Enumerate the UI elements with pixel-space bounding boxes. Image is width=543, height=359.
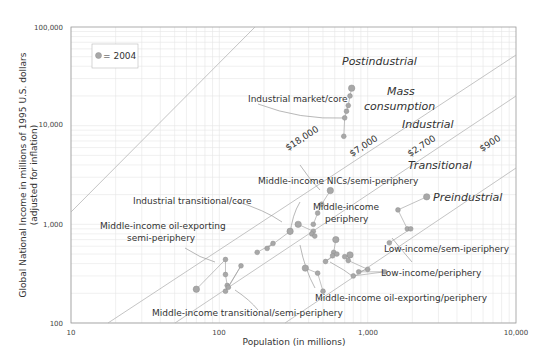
- data-point: [351, 274, 356, 279]
- legend-dot-icon: [96, 53, 102, 59]
- data-point: [193, 286, 199, 292]
- group-low-income-periphery: Low-income/periphery: [381, 268, 482, 278]
- x-tick-10: 10: [67, 329, 76, 337]
- trajectory-line: [398, 210, 407, 229]
- x-tick-100: 100: [212, 329, 225, 337]
- data-point: [342, 254, 347, 259]
- data-point: [226, 285, 231, 290]
- group-mi-oil-semi-1: Middle-income oil-exporting: [100, 221, 226, 231]
- data-point: [265, 246, 270, 251]
- stage-consumption: consumption: [364, 100, 435, 113]
- grid: [71, 27, 516, 323]
- data-point: [348, 85, 354, 91]
- stage-transitional: Transitional: [408, 159, 472, 172]
- data-point: [223, 272, 228, 277]
- data-point: [356, 269, 361, 274]
- data-point: [423, 194, 429, 200]
- data-point: [315, 271, 320, 276]
- data-point: [346, 258, 351, 263]
- price-label-2700: $2,700: [406, 133, 438, 159]
- legend: = 2004: [92, 44, 138, 68]
- data-point: [341, 134, 346, 139]
- legend-label: = 2004: [103, 51, 137, 61]
- trajectory-line: [348, 260, 367, 269]
- group-mi-periphery-1: Middle-income: [313, 202, 379, 212]
- data-point: [223, 257, 228, 262]
- stage-mass: Mass: [387, 85, 415, 98]
- data-point: [312, 234, 317, 239]
- group-mi-transitional: Middle-income transitional/semi-peripher…: [152, 308, 344, 318]
- y-tick-100000: 100,000: [34, 24, 63, 32]
- y-tick-10000: 10,000: [39, 121, 64, 129]
- stage-preindustrial: Preindustrial: [433, 191, 502, 204]
- data-point: [287, 228, 293, 234]
- data-point: [396, 208, 401, 213]
- data-point: [365, 267, 370, 272]
- y-tick-100: 100: [50, 320, 63, 328]
- data-point: [347, 252, 353, 258]
- data-point: [323, 259, 328, 264]
- group-industrial-transitional-core: Industrial transitional/core: [133, 196, 252, 206]
- data-point: [327, 187, 333, 193]
- y-axis-title: Global National Income in millions of 19…: [18, 52, 28, 297]
- group-mi-nics: Middle-income NICs/semi-periphery: [258, 176, 419, 186]
- group-mi-periphery-2: periphery: [325, 214, 369, 224]
- scatter-chart: = 2004 100,000 10,000 1,000 100 10 100 1…: [0, 0, 543, 359]
- data-point: [348, 94, 353, 99]
- data-point: [302, 265, 308, 271]
- per-capita-lines: [71, 27, 516, 323]
- plot-frame: [71, 27, 516, 323]
- data-point: [295, 221, 301, 227]
- price-label-18000: $18,000: [284, 124, 321, 153]
- data-point: [408, 226, 413, 231]
- data-point: [344, 109, 349, 114]
- group-mi-oil-periphery: Middle-income oil-exporting/periphery: [315, 293, 488, 303]
- stage-postindustrial: Postindustrial: [342, 55, 417, 68]
- group-mi-oil-semi-2: semi-periphery: [127, 233, 196, 243]
- data-point: [271, 241, 276, 246]
- y-tick-1000: 1,000: [43, 221, 63, 229]
- x-tick-1000: 1,000: [358, 329, 378, 337]
- data-point: [239, 263, 244, 268]
- data-point: [334, 252, 339, 257]
- data-point: [342, 115, 347, 120]
- data-point: [311, 222, 316, 227]
- y-axis-subtitle: (adjusted for inflation): [29, 125, 39, 226]
- trajectory-line: [196, 260, 225, 290]
- group-industrial-market-core: Industrial market/core: [248, 94, 348, 104]
- data-point: [333, 236, 339, 242]
- x-axis-title: Population (in millions): [243, 337, 346, 347]
- trajectory-line: [228, 266, 241, 288]
- group-low-income-semi-periphery: Low-income/sem-iperiphery: [384, 244, 510, 254]
- data-point: [255, 250, 260, 255]
- stage-industrial: Industrial: [402, 118, 454, 131]
- price-label-900: $900: [478, 133, 503, 154]
- x-tick-10000: 10,000: [504, 329, 529, 337]
